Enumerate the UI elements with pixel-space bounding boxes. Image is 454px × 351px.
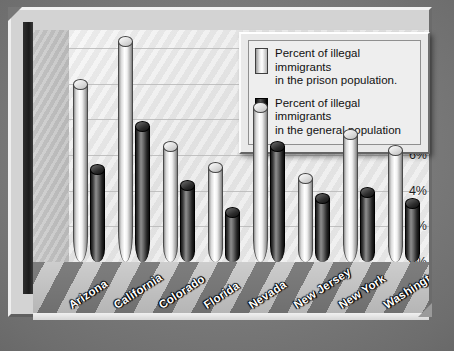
bar-washington-light bbox=[388, 150, 403, 262]
bar-florida-light bbox=[208, 167, 223, 262]
legend-swatch-light-icon bbox=[255, 48, 268, 74]
legend-label-prison-line1: Percent of illegal immigrants bbox=[275, 47, 414, 74]
bar-body bbox=[135, 126, 150, 262]
y-axis-wall bbox=[23, 22, 33, 294]
bar-top-cap bbox=[388, 145, 403, 156]
bar-body bbox=[388, 150, 403, 262]
bar-body bbox=[343, 134, 358, 262]
bar-top-cap bbox=[163, 141, 178, 152]
floor-front-lip bbox=[33, 313, 429, 320]
bar-body bbox=[253, 107, 268, 262]
bar-body bbox=[73, 84, 88, 262]
legend-item-prison: Percent of illegal immigrants in the pri… bbox=[255, 47, 414, 88]
bar-nevada-dark bbox=[270, 146, 285, 262]
bar-body bbox=[208, 167, 223, 262]
bar-new-york-light bbox=[343, 134, 358, 262]
bar-top-cap bbox=[118, 36, 133, 47]
bar-new-york-dark bbox=[360, 192, 375, 262]
bar-arizona-dark bbox=[90, 169, 105, 262]
bar-body bbox=[180, 185, 195, 262]
y-axis-face bbox=[33, 30, 69, 294]
legend-item-general: Percent of illegal immigrants in the gen… bbox=[255, 97, 414, 138]
bar-top-cap bbox=[343, 129, 358, 140]
bar-florida-dark bbox=[225, 212, 240, 262]
bar-body bbox=[118, 41, 133, 262]
bar-body bbox=[225, 212, 240, 262]
bar-body bbox=[298, 178, 313, 262]
bar-body bbox=[270, 146, 285, 262]
bar-top-cap bbox=[315, 193, 330, 204]
bar-body bbox=[90, 169, 105, 262]
bar-top-cap bbox=[253, 102, 268, 113]
bar-colorado-dark bbox=[180, 185, 195, 262]
bar-nevada-light bbox=[253, 107, 268, 262]
bar-body bbox=[163, 146, 178, 262]
legend-label-prison-line2: in the prison population. bbox=[275, 74, 414, 88]
bar-top-cap bbox=[270, 141, 285, 152]
bar-california-light bbox=[118, 41, 133, 262]
bar-top-cap bbox=[225, 207, 240, 218]
legend-label-general-line1: Percent of illegal immigrants bbox=[275, 97, 414, 124]
bar-top-cap bbox=[73, 79, 88, 90]
bar-body bbox=[360, 192, 375, 262]
bar-washington-dark bbox=[405, 203, 420, 262]
bar-body bbox=[405, 203, 420, 262]
chart-floor: ArizonaCaliforniaColoradoFloridaNevadaNe… bbox=[33, 262, 429, 320]
axis-hatch-texture bbox=[33, 30, 69, 294]
bar-california-dark bbox=[135, 126, 150, 262]
chart-screenshot: 12%10%8%6%4%2%0% ArizonaCaliforniaColora… bbox=[0, 0, 454, 351]
bar-arizona-light bbox=[73, 84, 88, 262]
chart-3d-frame: 12%10%8%6%4%2%0% ArizonaCaliforniaColora… bbox=[8, 7, 432, 317]
bar-new-jersey-dark bbox=[315, 198, 330, 262]
bar-new-jersey-light bbox=[298, 178, 313, 262]
bar-body bbox=[315, 198, 330, 262]
bar-colorado-light bbox=[163, 146, 178, 262]
